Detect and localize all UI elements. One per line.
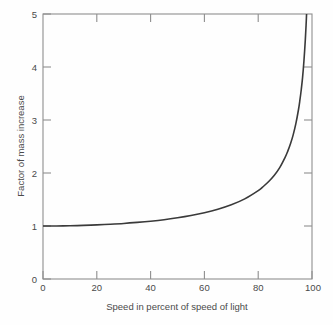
y-tick-label-4: 4 — [32, 62, 37, 73]
x-tick-label-20: 20 — [92, 282, 103, 293]
y-axis-ticks-right — [304, 67, 312, 226]
y-tick-label-5: 5 — [32, 9, 37, 20]
chart-canvas: 0 20 40 60 80 100 0 1 2 3 4 5 Speed in p… — [0, 0, 333, 325]
x-axis-ticks-top — [97, 14, 258, 22]
y-tick-label-2: 2 — [32, 168, 37, 179]
y-tick-label-1: 1 — [32, 221, 37, 232]
relativistic-mass-chart: 0 20 40 60 80 100 0 1 2 3 4 5 Speed in p… — [0, 0, 333, 325]
y-axis-title: Factor of mass increase — [15, 95, 26, 196]
x-axis-ticks — [43, 271, 312, 279]
y-axis-ticks — [43, 14, 51, 279]
x-axis-title: Speed in percent of speed of light — [106, 301, 248, 312]
y-tick-label-3: 3 — [32, 115, 37, 126]
x-tick-label-40: 40 — [145, 282, 156, 293]
x-tick-label-80: 80 — [253, 282, 264, 293]
x-tick-label-60: 60 — [199, 282, 210, 293]
plot-frame — [43, 14, 312, 279]
lorentz-factor-curve — [43, 0, 307, 226]
y-tick-label-0: 0 — [32, 274, 37, 285]
x-tick-label-0: 0 — [40, 282, 45, 293]
x-tick-label-100: 100 — [305, 282, 321, 293]
